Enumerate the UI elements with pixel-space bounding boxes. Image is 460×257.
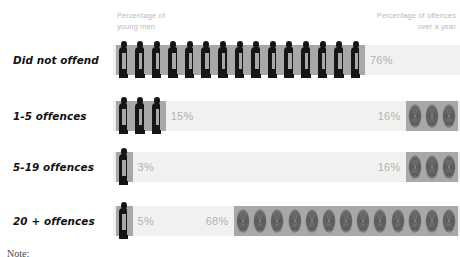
- fingerprint-icon: [320, 206, 337, 236]
- young-men-percent: 5%: [138, 206, 154, 236]
- fingerprint-icon: [441, 206, 458, 236]
- person-icon: [149, 101, 166, 131]
- young-men-icon-group: [116, 206, 133, 236]
- offence-percent: [398, 45, 452, 75]
- fingerprint-icon: [389, 206, 406, 236]
- person-icon: [116, 101, 133, 131]
- fingerprint-icon: [406, 206, 423, 236]
- person-icon: [133, 45, 150, 75]
- fingerprint-icon: [424, 101, 441, 131]
- column-header-young-men: Percentage of young men: [117, 11, 165, 32]
- person-icon: [133, 101, 150, 131]
- fingerprint-icon: [286, 206, 303, 236]
- person-icon: [348, 45, 365, 75]
- offence-icon-group: [406, 101, 458, 131]
- offence-percent: 16%: [346, 152, 400, 182]
- offence-icon-group: [234, 206, 457, 236]
- young-men-icon-group: [116, 101, 166, 131]
- person-icon: [299, 45, 316, 75]
- person-icon: [265, 45, 282, 75]
- young-men-percent: 76%: [370, 45, 393, 75]
- chart-row: 20 + offences 5% 68%: [0, 206, 460, 236]
- offence-icon-group: [406, 152, 458, 182]
- fingerprint-icon: [234, 206, 251, 236]
- footer-note: Note:: [7, 247, 29, 257]
- fingerprint-icon: [355, 206, 372, 236]
- row-label: Did not offend: [0, 45, 113, 75]
- fingerprint-icon: [252, 206, 269, 236]
- chart-row: Did not offend 76%: [0, 45, 460, 75]
- column-header-offences: Percentage of offences over a year: [377, 11, 456, 32]
- person-icon: [116, 152, 133, 182]
- chart-row: 1-5 offences 15% 16%: [0, 101, 460, 131]
- fingerprint-icon: [423, 206, 440, 236]
- fingerprint-icon: [424, 152, 441, 182]
- young-men-percent: 3%: [138, 152, 154, 182]
- person-icon: [249, 45, 266, 75]
- fingerprint-icon: [303, 206, 320, 236]
- chart-row: 5-19 offences 3% 16%: [0, 152, 460, 182]
- person-icon: [232, 45, 249, 75]
- infographic-chart: Percentage of young men Percentage of of…: [0, 0, 460, 257]
- person-icon: [116, 206, 133, 236]
- person-icon: [315, 45, 332, 75]
- fingerprint-icon: [441, 152, 458, 182]
- row-label: 1-5 offences: [0, 101, 113, 131]
- person-icon: [149, 45, 166, 75]
- fingerprint-icon: [338, 206, 355, 236]
- person-icon: [199, 45, 216, 75]
- person-icon: [166, 45, 183, 75]
- fingerprint-icon: [372, 206, 389, 236]
- row-label: 20 + offences: [0, 206, 113, 236]
- person-icon: [182, 45, 199, 75]
- person-icon: [116, 45, 133, 75]
- young-men-icon-group: [116, 152, 133, 182]
- offence-percent: 16%: [346, 101, 400, 131]
- fingerprint-icon: [441, 101, 458, 131]
- person-icon: [216, 45, 233, 75]
- young-men-icon-group: [116, 45, 365, 75]
- person-icon: [282, 45, 299, 75]
- row-label: 5-19 offences: [0, 152, 113, 182]
- fingerprint-icon: [406, 101, 423, 131]
- offence-percent: 68%: [174, 206, 228, 236]
- fingerprint-icon: [406, 152, 423, 182]
- young-men-percent: 15%: [171, 101, 194, 131]
- person-icon: [332, 45, 349, 75]
- fingerprint-icon: [269, 206, 286, 236]
